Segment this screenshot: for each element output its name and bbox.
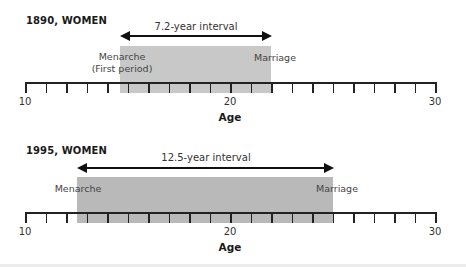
axis-tick [374,212,376,223]
arrow-right-icon [324,163,334,173]
axis-tick [189,212,191,223]
marriage-label: Marriage [316,183,358,195]
axis-tick [169,212,171,223]
interval-shade [77,177,333,223]
tick-label-10: 10 [19,226,32,237]
tick-label-20: 20 [224,226,237,237]
axis-tick [128,212,130,223]
menarche-label: Menarche [55,183,102,195]
axis-tick [87,212,89,223]
axis-tick [271,212,273,223]
axis-title: Age [219,241,242,253]
axis-tick [415,212,417,223]
axis-tick [230,212,232,223]
interval-label: 12.5-year interval [161,152,250,163]
interval-arrow [79,167,332,169]
axis-tick [394,212,396,223]
axis-tick [353,212,355,223]
panel-1995: 1995, WOMEN 12.5-year interval Menarche … [0,0,466,267]
axis-tick [333,212,335,223]
axis-tick [25,212,27,223]
axis-tick [66,212,68,223]
axis-tick [312,212,314,223]
panel-title: 1995, WOMEN [26,145,107,156]
axis-tick [107,212,109,223]
axis-tick [148,212,150,223]
axis-tick [251,212,253,223]
arrow-left-icon [77,163,87,173]
axis-tick [46,212,48,223]
axis-tick [210,212,212,223]
axis-tick [292,212,294,223]
axis-tick [435,212,437,223]
tick-label-30: 30 [429,226,442,237]
